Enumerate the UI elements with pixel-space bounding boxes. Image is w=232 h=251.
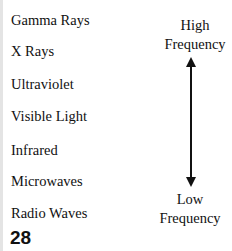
high-label-line2: Frequency bbox=[150, 35, 232, 54]
low-label-line1: Low bbox=[145, 190, 232, 209]
band-microwaves: Microwaves bbox=[11, 174, 83, 189]
band-x-rays: X Rays bbox=[11, 44, 54, 59]
page-edge bbox=[0, 0, 3, 251]
band-gamma-rays: Gamma Rays bbox=[11, 13, 90, 28]
low-label-line2: Frequency bbox=[145, 209, 232, 228]
high-frequency-label: High Frequency bbox=[150, 16, 232, 54]
double-headed-arrow-icon bbox=[185, 57, 197, 187]
page-number: 28 bbox=[10, 228, 31, 247]
band-visible-light: Visible Light bbox=[11, 109, 87, 124]
low-frequency-label: Low Frequency bbox=[145, 190, 232, 228]
band-ultraviolet: Ultraviolet bbox=[11, 77, 74, 92]
band-infrared: Infrared bbox=[11, 143, 58, 158]
band-radio-waves: Radio Waves bbox=[11, 206, 87, 221]
high-label-line1: High bbox=[150, 16, 232, 35]
